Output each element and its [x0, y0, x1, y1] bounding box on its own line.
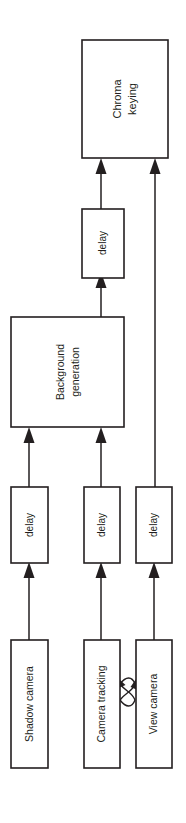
edge-delay-middle-to-background-generation — [96, 427, 107, 487]
node-delay-right[interactable]: delay — [136, 487, 172, 563]
node-background-generation-label-line1: Background — [54, 344, 66, 400]
node-background-generation-label-line2: generation — [69, 347, 81, 397]
block-diagram: Chroma keying delay Background generatio… — [0, 0, 186, 823]
node-delay-middle[interactable]: delay — [84, 487, 120, 563]
node-delay-top-label: delay — [97, 231, 108, 255]
node-delay-middle-label: delay — [96, 513, 107, 537]
diagram-canvas: Chroma keying delay Background generatio… — [0, 0, 186, 823]
node-background-generation[interactable]: Background generation — [11, 317, 124, 427]
node-view-camera-label: View camera — [147, 674, 159, 735]
node-chroma-keying-label-line1: Chroma — [111, 79, 123, 119]
node-camera-tracking[interactable]: Camera tracking — [84, 640, 120, 768]
edge-delay-top-to-chroma-keying — [96, 158, 107, 209]
node-shadow-camera[interactable]: Shadow camera — [11, 640, 48, 768]
node-shadow-camera-label: Shadow camera — [23, 666, 35, 742]
edge-camera-tracking-to-delay-middle — [96, 562, 107, 640]
node-delay-left[interactable]: delay — [11, 487, 48, 563]
node-view-camera[interactable]: View camera — [136, 640, 172, 768]
node-chroma-keying-label-line2: keying — [126, 83, 138, 115]
node-chroma-keying[interactable]: Chroma keying — [82, 40, 168, 158]
edge-delay-left-to-background-generation — [24, 427, 35, 487]
edge-view-camera-to-delay-right — [149, 562, 160, 640]
node-delay-left-label: delay — [24, 513, 35, 537]
node-delay-right-label: delay — [148, 513, 159, 537]
node-delay-top[interactable]: delay — [82, 209, 124, 278]
node-camera-tracking-label: Camera tracking — [95, 665, 107, 742]
edge-delay-right-to-chroma-keying — [150, 158, 161, 487]
edge-camera-tracking-view-camera-bidirectional — [119, 678, 138, 706]
edge-shadow-camera-to-delay-left — [24, 562, 35, 640]
